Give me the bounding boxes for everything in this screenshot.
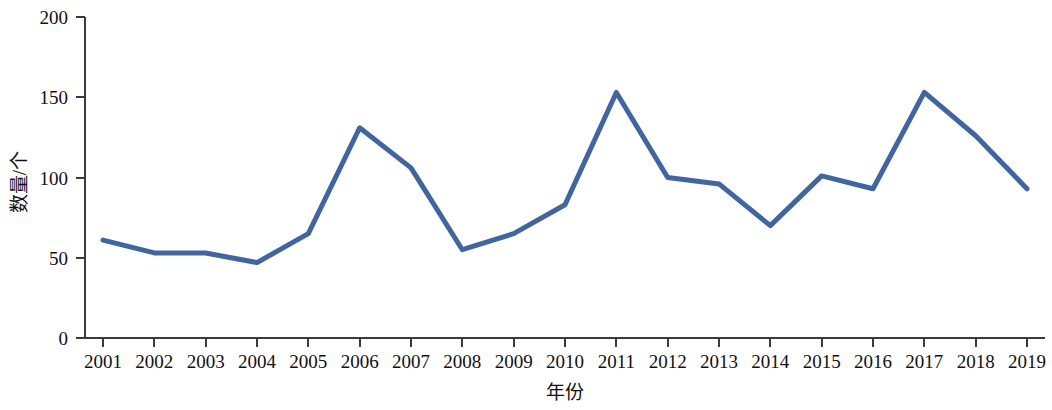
x-tick-label: 2014 — [751, 351, 790, 372]
x-axis-title: 年份 — [546, 382, 584, 403]
x-tick-label: 2001 — [84, 351, 122, 372]
y-axis-title: 数量/个 — [9, 151, 30, 213]
y-tick-label: 50 — [49, 248, 68, 269]
y-tick-label: 100 — [40, 168, 69, 189]
x-tick-label: 2011 — [598, 351, 635, 372]
x-tick-label: 2009 — [495, 351, 533, 372]
x-tick-label: 2013 — [700, 351, 738, 372]
y-tick-label: 200 — [40, 7, 69, 28]
x-tick-label: 2015 — [803, 351, 841, 372]
x-tick-label: 2018 — [957, 351, 995, 372]
x-tick-label: 2004 — [238, 351, 277, 372]
chart-background — [0, 0, 1052, 410]
y-tick-label: 0 — [59, 328, 69, 349]
x-tick-label: 2002 — [135, 351, 173, 372]
y-tick-label: 150 — [40, 87, 69, 108]
x-tick-label: 2017 — [905, 351, 943, 372]
x-tick-label: 2010 — [546, 351, 584, 372]
x-tick-label: 2005 — [289, 351, 327, 372]
line-chart-figure: 050100150200 数量/个 2001200220032004200520… — [0, 0, 1052, 410]
x-tick-label: 2012 — [649, 351, 687, 372]
x-tick-label: 2006 — [341, 351, 379, 372]
chart-canvas: 050100150200 数量/个 2001200220032004200520… — [0, 0, 1052, 410]
x-tick-label: 2008 — [443, 351, 481, 372]
x-tick-label: 2007 — [392, 351, 430, 372]
x-tick-label: 2016 — [854, 351, 892, 372]
x-tick-label: 2003 — [187, 351, 225, 372]
x-tick-label: 2019 — [1008, 351, 1046, 372]
